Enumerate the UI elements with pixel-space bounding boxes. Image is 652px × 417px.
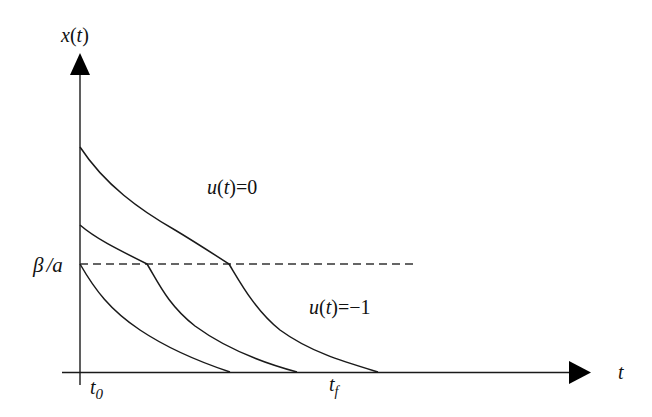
tf-label: tf (329, 373, 341, 399)
bottom-trajectory-curve (80, 264, 230, 372)
threshold-label: β/a (32, 253, 63, 277)
middle-trajectory-curve (80, 225, 297, 372)
diagram-canvas: x(t) t β/a t0 tf u(t)=0 u(t)=−1 (0, 0, 652, 417)
y-axis-label: x(t) (60, 24, 89, 47)
region-lower-label: u(t)=−1 (309, 296, 370, 319)
x-axis-arrow-icon (569, 361, 591, 384)
y-axis-arrow-icon (70, 53, 90, 75)
region-upper-label: u(t)=0 (207, 176, 257, 199)
x-axis-label: t (618, 361, 624, 383)
t0-label: t0 (90, 376, 104, 402)
